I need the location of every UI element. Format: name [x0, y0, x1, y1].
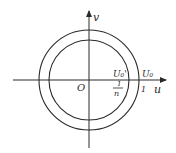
outer-circle-label: U₀ — [142, 69, 154, 79]
annulus-diagram: v u O U₀' 1 n U₀ 1 — [0, 0, 176, 153]
u-axis-label: u — [154, 83, 161, 96]
v-axis-label: v — [93, 11, 100, 24]
outer-radius-label: 1 — [141, 85, 146, 94]
inner-radius-numerator: 1 — [117, 80, 121, 88]
origin-label: O — [77, 82, 85, 93]
inner-circle-label: U₀' — [113, 69, 127, 79]
inner-radius-denominator: n — [114, 89, 119, 98]
